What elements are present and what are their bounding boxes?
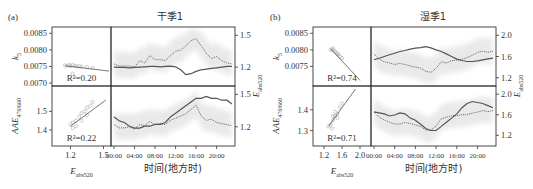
x-axis-label-sub: abs520 [76, 172, 93, 178]
y-tick-label: 0.0080 [285, 45, 308, 55]
scatter-point [336, 116, 339, 119]
right-axis-label: Eabs520 [512, 75, 524, 99]
right-axis-label: Eabs520 [251, 75, 263, 99]
r-squared-label: R²=0.20 [67, 73, 97, 83]
r-squared-label: R²=0.74 [327, 73, 357, 83]
x-axis-label: Eabs520 [330, 166, 354, 178]
y-tick-label: 0.0075 [24, 61, 47, 71]
right-y-tick-label: 1.5 [240, 89, 251, 99]
y-axis-label: k5 [271, 53, 283, 60]
right-y-tick-label: 1.2 [501, 130, 512, 140]
scatter-point [80, 112, 83, 115]
uncertainty-band [374, 97, 493, 143]
scatter-point [74, 125, 77, 128]
x-tick-label: 2.0 [355, 150, 366, 160]
right-y-tick-label: 1.5 [240, 30, 251, 40]
x-axis-label-sub: abs520 [336, 172, 353, 178]
scatter-point [334, 110, 337, 113]
panel-title: 干季1 [157, 11, 183, 22]
panel-label: (b) [270, 12, 281, 22]
right-axis-label-sub: abs520 [257, 75, 263, 92]
right-y-tick-label: 1.2 [240, 122, 251, 132]
y-axis-label-main: AAE [10, 117, 20, 135]
time-axis-label: 时间(地方时) [405, 162, 463, 174]
scatter-point [91, 100, 94, 103]
time-tick-label: 04:00 [127, 152, 143, 160]
time-tick-label: 12:00 [168, 152, 184, 160]
right-y-tick-label: 1.6 [501, 110, 512, 120]
scatter-point [89, 104, 92, 107]
y-tick-label: 1.4 [297, 105, 308, 115]
fit-line [71, 100, 106, 126]
x-axis-label: Eabs520 [69, 166, 93, 178]
right-y-tick-label: 1.6 [501, 52, 512, 62]
right-y-tick-label: 2.0 [501, 30, 512, 40]
scatter-point [83, 110, 86, 113]
scatter-point [331, 127, 334, 130]
scatter-point [331, 114, 334, 117]
row-top: 0.00850.00800.00750.00701.51.2k5R²=0.20 [10, 27, 251, 88]
x-tick-label: 1.2 [65, 150, 76, 160]
time-tick-label: 04:00 [387, 152, 403, 160]
row-bottom: 1.41.32.01.61.2AAE470/660R²=0.711.21.62.… [271, 86, 512, 178]
row-top: 0.00850.00800.00752.01.61.2k5R²=0.74 [271, 27, 512, 86]
scatter-point [71, 127, 74, 130]
y-tick-label: 0.0085 [24, 28, 47, 38]
y-axis-label: AAE470/660 [271, 98, 283, 135]
y-axis-label-main: AAE [271, 117, 281, 135]
y-tick-label: 0.0085 [285, 28, 308, 38]
y-tick-label: 0.0070 [24, 78, 47, 88]
y-tick-label: 1.4 [36, 125, 47, 135]
time-tick-label: 16:00 [449, 152, 465, 160]
time-tick-label: 00:00 [366, 152, 382, 160]
uncertainty-band [114, 29, 232, 79]
time-tick-label: 20:00 [470, 152, 486, 160]
chart-figure: (a)干季10.00850.00800.00750.00701.51.2k5R²… [0, 0, 533, 189]
panel-b: (b)湿季10.00850.00800.00752.01.61.2k5R²=0.… [270, 11, 524, 178]
y-axis-label: k5 [10, 53, 22, 60]
time-tick-label: 08:00 [147, 152, 163, 160]
y-tick-label: 0.0080 [24, 45, 47, 55]
y-tick-label: 0.0075 [285, 61, 308, 71]
x-tick-label: 1.2 [319, 150, 330, 160]
right-y-tick-label: 1.2 [501, 73, 512, 83]
y-axis-label-sub: 470/660 [277, 98, 283, 118]
r-squared-label: R²=0.71 [327, 133, 357, 143]
panel-label: (a) [8, 12, 18, 22]
y-axis-label-sub: 470/660 [16, 98, 22, 118]
y-axis-label-sub: 5 [277, 53, 283, 56]
panel-title: 湿季1 [420, 11, 446, 22]
right-axis-label-sub: abs520 [518, 75, 524, 92]
scatter-point [80, 119, 83, 122]
scatter-point [340, 102, 343, 105]
row-bottom: 1.51.41.51.2AAE470/660R²=0.221.21.5Eabs5… [10, 86, 251, 178]
time-axis-label: 时间(地方时) [144, 162, 202, 174]
scatter-point [78, 115, 81, 118]
fit-line [65, 66, 109, 71]
y-axis-label: AAE470/660 [10, 98, 22, 135]
right-y-tick-label: 1.2 [240, 62, 251, 72]
time-tick-label: 16:00 [188, 152, 204, 160]
r-squared-label: R²=0.22 [67, 133, 97, 143]
fit-line [329, 89, 356, 126]
time-tick-label: 12:00 [428, 152, 444, 160]
time-tick-label: 00:00 [106, 152, 122, 160]
scatter-point [85, 106, 88, 109]
x-tick-label: 1.6 [337, 150, 348, 160]
y-axis-label-sub: 5 [16, 53, 22, 56]
y-tick-label: 1.3 [297, 126, 308, 136]
right-y-tick-label: 2.0 [501, 89, 512, 99]
panel-a: (a)干季10.00850.00800.00750.00701.51.2k5R²… [8, 11, 263, 178]
time-tick-label: 20:00 [209, 152, 225, 160]
time-tick-label: 08:00 [407, 152, 423, 160]
y-tick-label: 1.5 [36, 106, 47, 116]
